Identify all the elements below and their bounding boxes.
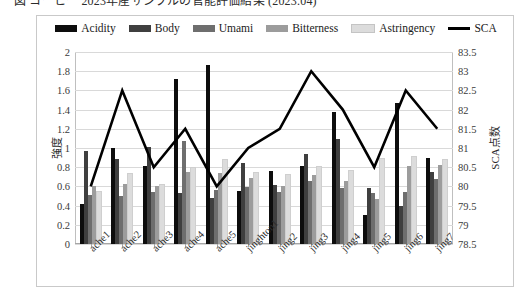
legend-label-bitterness: Bitterness [292, 22, 338, 34]
legend-label-body: Body [155, 22, 180, 34]
chart-frame: AcidityBodyUmamiBitternessAstringencySCA… [36, 15, 514, 287]
legend-label-astringency: Astringency [379, 22, 435, 34]
left-tick-label: 0.6 [57, 181, 70, 192]
bar-group [233, 52, 265, 244]
left-tick-label: 1.4 [57, 104, 70, 115]
right-tick-label: 80.5 [458, 162, 476, 173]
left-axis-title: 強度 [48, 137, 64, 159]
right-tick-label: 83 [458, 66, 469, 77]
plot-area: 21.81.61.41.210.80.60.40.20 83.58382.582… [75, 52, 453, 244]
legend-item-umami[interactable]: Umami [193, 22, 254, 34]
left-tick-label: 0.8 [57, 162, 70, 173]
legend-swatch-body-icon [129, 25, 151, 32]
chart-legend: AcidityBodyUmamiBitternessAstringencySCA [37, 22, 515, 34]
figure-caption-strip: 図 コーヒー 2023年産サンプルの官能評価結果 (2023.04) [0, 0, 531, 13]
left-tick-label: 1 [65, 143, 70, 154]
bar-group [359, 52, 391, 244]
bar-group [296, 52, 328, 244]
left-tick-label: 0.4 [57, 200, 70, 211]
x-axis-labels: ache1ache2ache3ache4ache5jinghton1jing2j… [75, 246, 453, 304]
bar-group [390, 52, 422, 244]
right-tick-label: 81 [458, 143, 469, 154]
bar-group [264, 52, 296, 244]
right-tick-label: 83.5 [458, 47, 476, 58]
legend-label-acidity: Acidity [81, 22, 116, 34]
figure-caption: 図 コーヒー 2023年産サンプルの官能評価結果 (2023.04) [14, 0, 317, 9]
left-tick-label: 2 [65, 47, 70, 58]
bar-group [327, 52, 359, 244]
bar-group [201, 52, 233, 244]
bar-group [107, 52, 139, 244]
right-tick-label: 79.5 [458, 200, 476, 211]
legend-swatch-acidity-icon [55, 25, 77, 32]
right-axis-title: SCA点数 [485, 126, 501, 169]
left-tick-label: 0.2 [57, 219, 70, 230]
bar-groups [75, 52, 453, 244]
legend-swatch-umami-icon [193, 25, 215, 32]
legend-item-acidity[interactable]: Acidity [55, 22, 116, 34]
bar-group [138, 52, 170, 244]
bar-group [422, 52, 454, 244]
right-tick-label: 82.5 [458, 85, 476, 96]
legend-label-umami: Umami [219, 22, 254, 34]
legend-item-sca[interactable]: SCA [448, 22, 496, 34]
legend-swatch-bitterness-icon [266, 25, 288, 32]
legend-label-sca: SCA [474, 22, 496, 34]
left-tick-label: 1.8 [57, 66, 70, 77]
legend-swatch-astringency-icon [351, 24, 375, 33]
left-tick-label: 1.2 [57, 123, 70, 134]
right-tick-label: 82 [458, 104, 469, 115]
bar-group [75, 52, 107, 244]
legend-item-bitterness[interactable]: Bitterness [266, 22, 338, 34]
legend-swatch-sca-icon [448, 27, 470, 30]
left-tick-label: 1.6 [57, 85, 70, 96]
bar-group [170, 52, 202, 244]
right-tick-label: 78.5 [458, 239, 476, 250]
legend-item-astringency[interactable]: Astringency [351, 22, 435, 34]
right-tick-label: 81.5 [458, 123, 476, 134]
right-tick-label: 79 [458, 219, 469, 230]
right-tick-label: 80 [458, 181, 469, 192]
chart-page: 図 コーヒー 2023年産サンプルの官能評価結果 (2023.04) Acidi… [0, 0, 531, 307]
left-tick-label: 0 [65, 239, 70, 250]
legend-item-body[interactable]: Body [129, 22, 180, 34]
